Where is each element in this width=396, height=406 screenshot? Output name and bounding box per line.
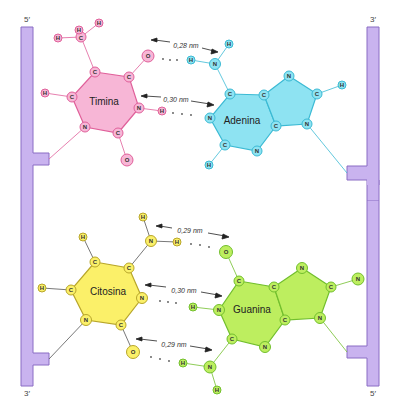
dna-base-pairing-diagram: 5′ 3′ 3′ 5′ C C N C N xyxy=(0,0,396,406)
atom-label: C xyxy=(223,142,228,148)
atom-label: H xyxy=(207,162,211,168)
atom-label: N xyxy=(84,317,88,323)
atom-label: H xyxy=(189,57,193,63)
hydrogen-bonds-at: 0,28 nm 0,30 nm xyxy=(141,38,218,116)
atom-label: C xyxy=(70,94,75,100)
atom-label: N xyxy=(137,105,141,111)
atom-label: O xyxy=(131,349,136,355)
atom-label: N xyxy=(300,265,304,271)
atom-label: C xyxy=(69,287,74,293)
atom-label: O xyxy=(125,157,130,163)
citosina-molecule: C C N C N C N H H O H H Citosina xyxy=(38,213,181,359)
distance-label-gc-1: 0,29 nm xyxy=(177,227,202,234)
distance-label-gc-3: 0,29 nm xyxy=(161,341,186,348)
atom-label: H xyxy=(215,387,219,393)
atom-label: C xyxy=(127,265,132,271)
atom-label: N xyxy=(140,295,144,301)
strand-end-label-3prime-right: 3′ xyxy=(370,15,376,24)
base-label-guanina: Guanina xyxy=(233,304,271,315)
strand-end-label-3prime-left: 3′ xyxy=(24,389,30,398)
atom-label: C xyxy=(272,284,277,290)
strand-end-label-5prime-right: 5′ xyxy=(370,389,376,398)
atom-label: C xyxy=(329,284,334,290)
atom-label: N xyxy=(263,344,267,350)
atom-label: N xyxy=(356,276,360,282)
atom-label: C xyxy=(262,92,267,98)
atom-label: C xyxy=(127,74,132,80)
adenina-backbone-link xyxy=(307,124,347,173)
atom-label: C xyxy=(283,317,288,323)
atom-label: H xyxy=(81,234,85,240)
timina-backbone-link xyxy=(49,127,85,159)
atom-label: O xyxy=(224,249,229,255)
atom-label: H xyxy=(227,41,231,47)
distance-label-gc-2: 0,30 nm xyxy=(171,287,196,294)
atom-label: H xyxy=(43,90,47,96)
atom-label: H xyxy=(40,285,44,291)
atom-label: H xyxy=(77,27,81,33)
atom-label: N xyxy=(213,61,217,67)
atom-label: C xyxy=(79,35,84,41)
right-backbone xyxy=(347,27,379,386)
atom-label: N xyxy=(208,364,212,370)
atom-label: C xyxy=(116,130,121,136)
atom-label: H xyxy=(160,108,164,114)
guanina-backbone-link xyxy=(320,318,347,352)
left-backbone xyxy=(21,27,49,386)
base-label-citosina: Citosina xyxy=(90,286,127,297)
base-label-adenina: Adenina xyxy=(224,115,261,126)
atom-label: C xyxy=(228,91,233,97)
atom-label: H xyxy=(191,304,195,310)
atom-label: C xyxy=(274,123,279,129)
guanina-molecule: O C C C N C N H N H H N C N N Guanina xyxy=(179,246,364,395)
atom-label: O xyxy=(146,53,151,59)
atom-label: C xyxy=(119,322,124,328)
distance-label-at-1: 0,28 nm xyxy=(173,42,198,49)
atom-label: H xyxy=(97,20,101,26)
atom-label: H xyxy=(175,239,179,245)
atom-label: C xyxy=(93,259,98,265)
atom-label: N xyxy=(149,238,153,244)
distance-label-at-2: 0,30 nm xyxy=(163,96,188,103)
atom-label: N xyxy=(318,315,322,321)
atom-label: N xyxy=(305,121,309,127)
atom-label: N xyxy=(287,73,291,79)
atom-label: C xyxy=(315,91,320,97)
atom-label: C xyxy=(230,336,235,342)
atom-label: N xyxy=(255,148,259,154)
atom-label: H xyxy=(56,35,60,41)
atom-label: C xyxy=(93,69,98,75)
atom-label: H xyxy=(181,360,185,366)
atom-label: H xyxy=(141,214,145,220)
atom-label: N xyxy=(83,124,87,130)
citosina-backbone-link xyxy=(49,320,86,359)
atom-label: C xyxy=(237,278,242,284)
strand-end-label-5prime-left: 5′ xyxy=(24,15,30,24)
timina-molecule: C C N C N C O O H H C H H H Timina xyxy=(41,19,166,166)
atom-label: H xyxy=(340,82,344,88)
atom-label: N xyxy=(208,115,212,121)
base-label-timina: Timina xyxy=(89,96,119,107)
atom-label: N xyxy=(217,307,221,313)
